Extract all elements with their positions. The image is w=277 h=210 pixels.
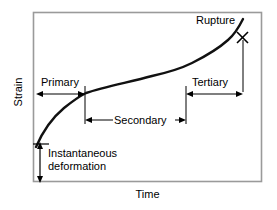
- instantaneous-deformation-label: Instantaneous deformation: [48, 147, 117, 172]
- primary-arrow: [36, 91, 85, 97]
- tertiary-stage-label: Tertiary: [192, 76, 228, 88]
- instantaneous-deformation-arrow: [33, 142, 49, 183]
- x-axis-label: Time: [33, 188, 262, 200]
- tertiary-arrow: [186, 91, 243, 97]
- secondary-stage-label: Secondary: [114, 114, 167, 126]
- primary-stage-label: Primary: [41, 76, 79, 88]
- y-axis-label: Strain: [12, 68, 24, 116]
- creep-curve-figure: Strain Time Rupture Primary Secondary Te…: [0, 0, 277, 210]
- rupture-label: Rupture: [196, 14, 235, 26]
- creep-curve-svg: [0, 0, 277, 210]
